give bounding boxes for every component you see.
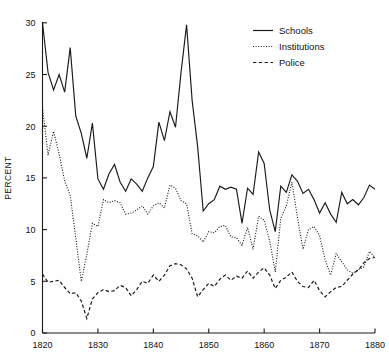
y-tick-label: 5 [30,277,35,287]
y-tick-label: 25 [25,70,35,80]
y-tick-label: 10 [25,225,35,235]
line-chart: 051015202530 182018301840185018601870188… [0,0,389,361]
legend-label-schools: Schools [279,25,313,36]
legend-label-institutions: Institutions [279,41,325,52]
x-tick-label: 1870 [310,340,330,350]
y-tick-label: 20 [25,122,35,132]
x-tick-group: 1820183018401850186018701880 [32,329,385,351]
chart-figure: 051015202530 182018301840185018601870188… [0,0,389,361]
x-tick-label: 1880 [365,340,385,350]
y-tick-group: 051015202530 [25,18,47,338]
chart-legend: Schools Institutions Police [253,25,325,68]
x-tick-label: 1850 [199,340,219,350]
series-police [43,258,376,319]
y-tick-label: 15 [25,173,35,183]
y-axis-title: PERCENT [3,156,13,199]
y-tick-label: 0 [30,328,35,338]
x-tick-label: 1830 [88,340,108,350]
series-institutions [43,108,376,282]
x-tick-label: 1820 [32,340,52,350]
x-tick-label: 1840 [143,340,163,350]
series-schools [43,23,376,232]
legend-label-police: Police [279,57,305,68]
y-tick-label: 30 [25,18,35,28]
x-tick-label: 1860 [254,340,274,350]
series-group [43,23,376,319]
